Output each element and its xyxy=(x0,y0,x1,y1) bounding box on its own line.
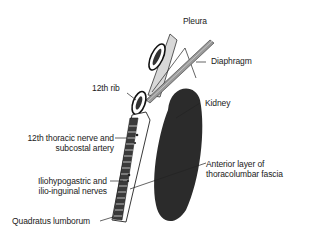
kidney-shape xyxy=(154,89,202,222)
label-pleura: Pleura xyxy=(183,16,207,26)
label-iliohypogastric: Iliohypogastric and ilio-inguinal nerves xyxy=(10,176,107,196)
label-kidney: Kidney xyxy=(205,98,230,108)
label-quadratus-lumborum: Quadratus lumborum xyxy=(12,216,90,226)
label-12th-thoracic-nerve: 12th thoracic nerve and subcostal artery xyxy=(10,133,114,153)
diagram-canvas xyxy=(0,0,314,242)
label-12th-rib: 12th rib xyxy=(92,83,120,93)
label-diaphragm: Diaphragm xyxy=(211,56,252,66)
label-anterior-layer: Anterior layer of thoracolumbar fascia xyxy=(206,159,283,179)
